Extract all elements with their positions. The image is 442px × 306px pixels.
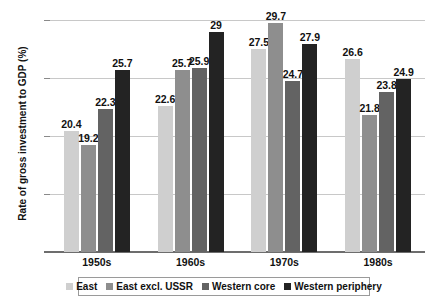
bar-slot: 25.7 (115, 20, 130, 252)
bar-slot: 23.8 (379, 20, 394, 252)
bar[interactable] (302, 44, 317, 252)
bar[interactable] (345, 59, 360, 252)
bar-value-label: 23.8 (376, 80, 396, 91)
bar[interactable] (98, 109, 113, 252)
bar-slot: 25.9 (192, 20, 207, 252)
bar[interactable] (158, 106, 173, 252)
legend-swatch-western-periphery (284, 283, 291, 290)
legend-swatch-east-excl-ussr (106, 283, 113, 290)
bar-value-label: 20.4 (61, 119, 81, 130)
bar-value-label: 19.2 (78, 133, 98, 144)
bar-slot: 22.6 (158, 20, 173, 252)
bar-value-label: 26.6 (342, 47, 362, 58)
legend-label: East (76, 281, 97, 292)
bar-group: 27.529.724.727.91970s (238, 20, 332, 252)
bar-slot: 29 (209, 20, 224, 252)
bar-slot: 20.4 (64, 20, 79, 252)
bar[interactable] (362, 115, 377, 252)
bar[interactable] (192, 68, 207, 252)
bar-groups: 20.419.222.325.71950s22.625.725.9291960s… (50, 20, 425, 252)
bar-slot: 27.5 (251, 20, 266, 252)
legend-label: East excl. USSR (116, 281, 193, 292)
bar[interactable] (64, 131, 79, 252)
bar-slot: 24.9 (396, 20, 411, 252)
legend-item: East excl. USSR (106, 281, 193, 292)
bar-slot: 22.3 (98, 20, 113, 252)
bar-value-label: 24.9 (393, 67, 413, 78)
bar-value-label: 29 (210, 20, 222, 31)
bar[interactable] (285, 81, 300, 252)
x-axis-tick-label: 1960s (144, 256, 238, 268)
legend-label: Western periphery (294, 281, 382, 292)
legend-item: Western periphery (284, 281, 382, 292)
bar-group-bars: 27.529.724.727.9 (238, 20, 332, 252)
x-axis-tick-label: 1950s (50, 256, 144, 268)
bar-chart: Rate of gross investment to GDP (%) 20.4… (0, 0, 442, 306)
legend-label: Western core (212, 281, 275, 292)
bar[interactable] (379, 92, 394, 252)
bar-slot: 29.7 (268, 20, 283, 252)
legend-swatch-western-core (202, 283, 209, 290)
bar-value-label: 25.7 (112, 58, 132, 69)
chart-legend: East East excl. USSR Western core Wester… (78, 277, 370, 296)
bar-group-bars: 26.621.823.824.9 (331, 20, 425, 252)
bar-value-label: 29.7 (266, 11, 286, 22)
bar[interactable] (175, 70, 190, 252)
bar-slot: 26.6 (345, 20, 360, 252)
bar-value-label: 27.9 (300, 32, 320, 43)
bar-slot: 27.9 (302, 20, 317, 252)
plot-area: 20.419.222.325.71950s22.625.725.9291960s… (50, 20, 425, 252)
legend-swatch-east (66, 283, 73, 290)
bar[interactable] (115, 70, 130, 252)
bar-value-label: 25.9 (189, 56, 209, 67)
bar[interactable] (251, 49, 266, 252)
bar-value-label: 27.5 (249, 37, 269, 48)
bar-group: 26.621.823.824.91980s (331, 20, 425, 252)
bar-value-label: 22.3 (95, 97, 115, 108)
bar[interactable] (81, 145, 96, 252)
y-axis-title: Rate of gross investment to GDP (%) (17, 18, 28, 250)
bar-slot: 21.8 (362, 20, 377, 252)
bar-slot: 25.7 (175, 20, 190, 252)
bar-group-bars: 20.419.222.325.7 (50, 20, 144, 252)
bar[interactable] (268, 23, 283, 252)
bar-group: 20.419.222.325.71950s (50, 20, 144, 252)
legend-item: Western core (202, 281, 275, 292)
bar[interactable] (209, 32, 224, 252)
legend-item: East (66, 281, 97, 292)
x-axis-tick-label: 1970s (238, 256, 332, 268)
bar-value-label: 21.8 (359, 103, 379, 114)
bar-slot: 24.7 (285, 20, 300, 252)
bar-value-label: 22.6 (155, 94, 175, 105)
bar-slot: 19.2 (81, 20, 96, 252)
bar-group: 22.625.725.9291960s (144, 20, 238, 252)
x-axis-tick-label: 1980s (331, 256, 425, 268)
bar[interactable] (396, 79, 411, 252)
bar-group-bars: 22.625.725.929 (144, 20, 238, 252)
bar-value-label: 24.7 (283, 69, 303, 80)
